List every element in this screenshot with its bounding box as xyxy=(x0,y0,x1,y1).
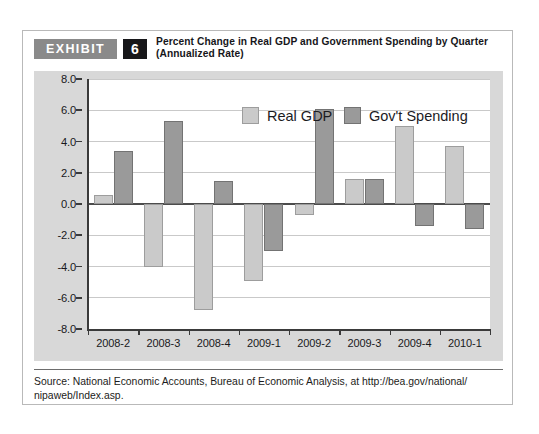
y-axis-tick-label: -8.0 xyxy=(34,323,76,335)
exhibit-title-line-1: Percent Change in Real GDP and Governmen… xyxy=(156,36,504,48)
x-axis-tick-label: 2009-1 xyxy=(247,337,281,349)
y-axis-tick-label: -6.0 xyxy=(34,292,76,304)
x-axis-tick-label: 2009-4 xyxy=(398,337,432,349)
y-axis-tick-label: 8.0 xyxy=(34,73,76,85)
exhibit-title-line-2: (Annualized Rate) xyxy=(156,48,504,60)
y-axis-tick xyxy=(76,203,82,205)
x-axis-tick-label: 2008-2 xyxy=(96,337,130,349)
y-axis-tick-label: -2.0 xyxy=(34,229,76,241)
bar-govt-spending xyxy=(365,179,384,204)
bar-govt-spending xyxy=(164,121,183,204)
y-axis-tick-label: 0.0 xyxy=(34,198,76,210)
y-axis-tick-label: 4.0 xyxy=(34,136,76,148)
bar-govt-spending xyxy=(465,204,484,229)
bar-real-gdp xyxy=(244,204,263,281)
bar-group xyxy=(144,79,183,329)
exhibit-header: EXHIBIT 6 Percent Change in Real GDP and… xyxy=(23,31,512,69)
x-axis-tick-label: 2010-1 xyxy=(448,337,482,349)
bar-govt-spending xyxy=(264,204,283,251)
x-axis-labels: 2008-22008-32008-42009-12009-22009-32009… xyxy=(88,337,490,355)
y-axis-tick xyxy=(76,328,82,330)
legend-swatch-icon xyxy=(344,107,361,124)
y-axis-tick xyxy=(76,141,82,143)
x-axis-tick xyxy=(490,329,491,335)
bar-real-gdp xyxy=(94,195,113,204)
source-label: Source: xyxy=(34,376,70,387)
y-axis-tick xyxy=(76,78,82,80)
y-axis-tick xyxy=(76,297,82,299)
bar-real-gdp xyxy=(295,204,314,215)
x-axis-tick xyxy=(289,329,290,335)
legend-label: Gov't Spending xyxy=(369,108,468,124)
legend-swatch-icon xyxy=(242,107,259,124)
bar-govt-spending xyxy=(114,151,133,204)
y-axis-labels: 8.06.04.02.00.0-2.0-4.0-6.0-8.0 xyxy=(34,79,82,329)
x-axis-tick xyxy=(88,329,89,335)
source-text: National Economic Accounts, Bureau of Ec… xyxy=(34,376,467,401)
x-axis-tick xyxy=(339,329,340,335)
chart-panel: 8.06.04.02.00.0-2.0-4.0-6.0-8.0 2008-220… xyxy=(34,71,503,361)
x-axis-tick-label: 2008-4 xyxy=(197,337,231,349)
x-axis-tick xyxy=(189,329,190,335)
legend-label: Real GDP xyxy=(267,108,332,124)
x-axis-tick xyxy=(440,329,441,335)
legend-item-govt-spending: Gov't Spending xyxy=(344,107,468,124)
bar-real-gdp xyxy=(194,204,213,310)
page-title: Percent Change in Real GDP and Governmen… xyxy=(156,36,504,61)
x-axis-tick xyxy=(138,329,139,335)
bar-real-gdp xyxy=(144,204,163,267)
x-axis-ticks xyxy=(88,329,490,337)
bar-real-gdp xyxy=(445,146,464,204)
source-note: Source: National Economic Accounts, Bure… xyxy=(34,375,504,402)
x-axis-tick xyxy=(239,329,240,335)
legend-item-real-gdp: Real GDP xyxy=(242,107,332,124)
bar-real-gdp xyxy=(395,126,414,204)
bar-group xyxy=(94,79,133,329)
y-axis-tick xyxy=(76,109,82,111)
y-axis-tick xyxy=(76,266,82,268)
x-axis-tick-label: 2009-2 xyxy=(297,337,331,349)
exhibit-badge: EXHIBIT xyxy=(34,39,117,59)
screenshot-root: EXHIBIT 6 Percent Change in Real GDP and… xyxy=(0,0,539,434)
exhibit-card: EXHIBIT 6 Percent Change in Real GDP and… xyxy=(22,30,513,405)
exhibit-number: 6 xyxy=(123,39,147,59)
x-axis-tick-label: 2008-3 xyxy=(147,337,181,349)
y-axis-tick xyxy=(76,172,82,174)
source-divider xyxy=(34,369,503,370)
y-axis-tick xyxy=(76,234,82,236)
bar-real-gdp xyxy=(345,179,364,204)
y-axis-tick-label: 2.0 xyxy=(34,167,76,179)
bar-govt-spending xyxy=(415,204,434,226)
y-axis-tick-label: 6.0 xyxy=(34,104,76,116)
x-axis-tick xyxy=(390,329,391,335)
x-axis-tick-label: 2009-3 xyxy=(348,337,382,349)
bar-govt-spending xyxy=(214,181,233,204)
y-axis-tick-label: -4.0 xyxy=(34,261,76,273)
bar-group xyxy=(194,79,233,329)
